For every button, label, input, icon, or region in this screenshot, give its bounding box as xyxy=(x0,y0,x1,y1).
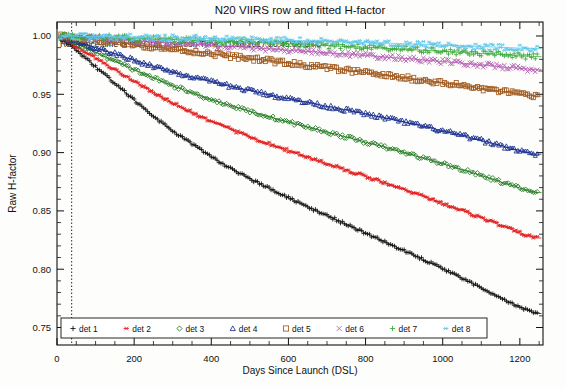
legend-label: det 2 xyxy=(132,324,151,334)
chart-figure: N20 VIIRS row and fitted H-factor0.750.8… xyxy=(0,0,566,388)
x-tick-label: 400 xyxy=(203,353,219,364)
legend-label: det 7 xyxy=(399,324,418,334)
y-tick-label: 0.75 xyxy=(33,322,52,333)
x-tick-label: 1200 xyxy=(509,353,530,364)
legend-label: det 6 xyxy=(345,324,364,334)
legend-label: det 5 xyxy=(292,324,311,334)
h-factor-plot: N20 VIIRS row and fitted H-factor0.750.8… xyxy=(0,0,566,388)
y-tick-label: 0.95 xyxy=(33,89,52,100)
y-tick-label: 0.85 xyxy=(33,205,52,216)
y-tick-label: 0.90 xyxy=(33,147,52,158)
x-tick-label: 1000 xyxy=(432,353,453,364)
legend-label: det 8 xyxy=(452,324,471,334)
y-axis-label: Raw H-factor xyxy=(7,154,18,213)
legend-label: det 3 xyxy=(186,324,205,334)
legend-label: det 1 xyxy=(79,324,98,334)
x-tick-label: 600 xyxy=(280,353,296,364)
x-tick-label: 200 xyxy=(126,353,142,364)
y-tick-label: 1.00 xyxy=(33,30,52,41)
y-tick-label: 0.80 xyxy=(33,264,52,275)
x-tick-label: 800 xyxy=(358,353,374,364)
legend-label: det 4 xyxy=(239,324,258,334)
x-tick-label: 0 xyxy=(54,353,59,364)
chart-title: N20 VIIRS row and fitted H-factor xyxy=(215,4,386,16)
legend-box xyxy=(61,318,487,338)
x-axis-label: Days Since Launch (DSL) xyxy=(242,365,357,376)
